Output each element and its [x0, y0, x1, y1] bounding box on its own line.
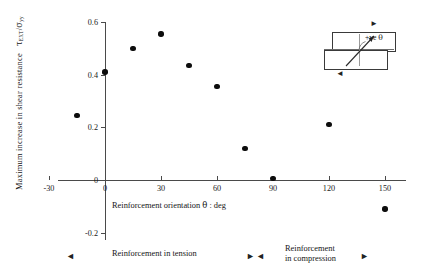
data-point — [102, 69, 107, 74]
x-tick-label: 30 — [157, 184, 165, 193]
x-tick-label: -30 — [44, 184, 55, 193]
y-axis-line — [105, 22, 106, 240]
slash-symbol: / — [15, 28, 24, 31]
y-tick-label: 0 — [69, 176, 98, 185]
y-tick-mark — [101, 180, 105, 181]
x-axis-line — [58, 180, 406, 181]
x-tick-mark — [217, 176, 218, 180]
compression-left-arrow-icon: ◄ — [256, 252, 265, 261]
x-tick-mark — [49, 176, 50, 180]
x-tick-label: 150 — [379, 184, 391, 193]
legend-compression-line1: Reinforcement — [285, 244, 335, 253]
inset-bottom-arrow-icon: ◄ — [336, 70, 344, 78]
x-axis-title: Reinforcement orientation θ : deg — [112, 200, 226, 210]
data-point — [242, 146, 247, 151]
reinforcement-bar-icon — [318, 18, 410, 80]
y-tick-mark — [101, 233, 105, 234]
legend-compression-line2: in compression — [285, 254, 336, 263]
y-tick-mark — [101, 75, 105, 76]
legend-compression-label: Reinforcement in compression — [285, 244, 336, 264]
x-axis-title-prefix: Reinforcement orientation — [112, 201, 200, 210]
y-tick-mark — [101, 127, 105, 128]
x-tick-label: 60 — [213, 184, 221, 193]
x-tick-mark — [385, 176, 386, 180]
y-axis-title: Maximum increase in shear resistance τEX… — [14, 0, 24, 208]
y-tick-label: 0.6 — [69, 18, 98, 27]
tension-left-arrow-icon: ◄ — [66, 252, 75, 261]
x-axis-title-suffix: : deg — [209, 201, 226, 210]
data-point — [158, 31, 163, 36]
inset-angle-label: +ve θ — [365, 33, 383, 42]
data-point — [214, 84, 219, 89]
data-point — [74, 113, 79, 118]
figure-canvas: Maximum increase in shear resistance τEX… — [0, 0, 421, 280]
tau-symbol: τ — [14, 41, 24, 46]
y-tick-label: 0.4 — [69, 70, 98, 79]
y-tick-label: 0.2 — [69, 123, 98, 132]
tau-subscript: EXT — [18, 30, 24, 41]
legend-tension-label: Reinforcement in tension — [112, 249, 197, 259]
x-tick-mark — [105, 176, 106, 180]
y-tick-label: -0.2 — [69, 228, 98, 237]
data-point — [382, 206, 387, 211]
data-point — [130, 46, 135, 51]
compression-right-arrow-icon: ► — [360, 252, 369, 261]
sigma-subscript: yy — [18, 16, 24, 22]
data-point — [186, 63, 191, 68]
x-tick-label: 120 — [323, 184, 335, 193]
y-tick-mark — [101, 22, 105, 23]
y-axis-title-text: Maximum increase in shear resistance — [15, 53, 24, 190]
x-tick-mark — [329, 176, 330, 180]
shear-box-inset-diagram: ► +ve θ ◄ — [318, 18, 410, 80]
x-tick-mark — [161, 176, 162, 180]
inset-angle-prefix: +ve — [365, 33, 376, 42]
inset-theta-symbol: θ — [378, 33, 383, 42]
tension-right-arrow-icon: ► — [246, 252, 255, 261]
x-tick-label: 90 — [269, 184, 277, 193]
sigma-symbol: σ — [14, 22, 24, 28]
x-tick-label: 0 — [103, 184, 107, 193]
data-point — [270, 176, 275, 181]
data-point — [326, 122, 331, 127]
theta-symbol: θ — [202, 200, 207, 210]
